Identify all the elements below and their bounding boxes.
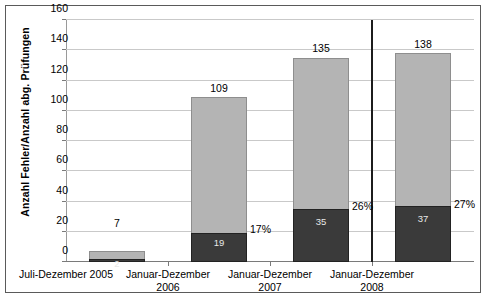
- ytick-label-140: 140: [8, 32, 68, 44]
- bar-2008[interactable]: 37: [395, 53, 451, 262]
- ytick-label-120: 120: [8, 63, 68, 75]
- bar-percent-label-2007: 26%: [352, 200, 373, 212]
- xcat-label-2007: Januar-Dezember 2007: [218, 268, 322, 294]
- bar-total-label-2006: 109: [210, 82, 228, 94]
- bar-percent-label-2006: 17%: [250, 223, 271, 235]
- ytick-label-40: 40: [8, 184, 68, 196]
- bar-dark-label-2008: 37: [396, 213, 450, 224]
- bar-2005[interactable]: 2: [89, 251, 145, 262]
- ytick-label-20: 20: [8, 214, 68, 226]
- bar-group-2007: 135 35 26%: [270, 20, 372, 262]
- bar-segment-dark-2008: 37: [395, 206, 451, 262]
- chart-frame: Anzahl Fehler/Anzahl abg. Prüfungen 160 …: [5, 5, 481, 293]
- bar-segment-dark-2007: 35: [293, 209, 349, 262]
- bar-dark-label-2007: 35: [294, 216, 348, 227]
- xcat-label-2008: Januar-Dezember 2008: [320, 268, 424, 294]
- ytick-label-100: 100: [8, 93, 68, 105]
- bar-2007[interactable]: 35: [293, 58, 349, 262]
- ytick-label-0: 0: [8, 244, 68, 256]
- bar-segment-dark-2006: 19: [191, 233, 247, 262]
- xcat-label-2006: Januar-Dezember 2006: [116, 268, 220, 294]
- ytick-label-60: 60: [8, 153, 68, 165]
- bar-total-label-2007: 135: [312, 42, 330, 54]
- bar-segment-dark-2005: 2: [89, 259, 145, 262]
- bar-dark-label-2006: 19: [192, 237, 246, 248]
- bar-group-2005: 7 2: [66, 20, 168, 262]
- bar-group-2006: 109 19 17%: [168, 20, 270, 262]
- bar-total-label-2005: 7: [114, 217, 120, 229]
- ytick-label-160: 160: [8, 2, 68, 14]
- xtick-2005: [168, 262, 169, 266]
- xtick-2007: [372, 262, 373, 266]
- bar-group-2008: 138 37 27%: [372, 20, 474, 262]
- bar-percent-label-2008: 27%: [454, 198, 475, 210]
- xcat-label-2005: Juli-Dezember 2005: [14, 268, 118, 281]
- bar-total-label-2008: 138: [414, 38, 432, 50]
- xtick-2006: [270, 262, 271, 266]
- plot-area: 160 140 120 100 80 60 40 20 0 7: [66, 20, 474, 262]
- bar-2006[interactable]: 19: [191, 97, 247, 262]
- ytick-label-80: 80: [8, 123, 68, 135]
